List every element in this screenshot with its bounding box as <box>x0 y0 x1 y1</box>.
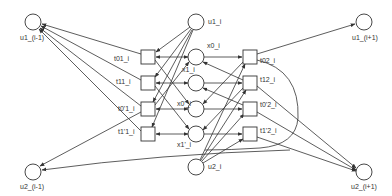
arc-u1i-to-t1p1 <box>152 30 193 127</box>
arc-t0p2-to-x1 <box>203 88 243 105</box>
place-label: x0'_i <box>177 100 192 108</box>
transition-label: t12_i <box>260 76 276 84</box>
transition-label: t01_i <box>114 55 130 63</box>
diagram-svg: u1_(i-1) u2_(i-1) u1_i x0_i x1_i x0'_i <box>0 0 392 196</box>
transition-t02-i[interactable]: t02_i <box>243 50 276 65</box>
place-label: u2_(i+1) <box>351 183 377 191</box>
arc-t0p1-to-u2im1 <box>40 112 141 166</box>
arc-t01-to-u1im1 <box>42 24 141 54</box>
transition-t1p2-i[interactable]: t1'2_i <box>243 127 277 141</box>
arc-u2i-to-t02 <box>200 64 245 160</box>
arc-t1p2-to-u2ip1 <box>257 137 356 171</box>
place-label: u1_i <box>208 18 222 26</box>
transition-label: t11_i <box>116 78 131 86</box>
place-label: x0_i <box>207 42 220 50</box>
place-x1p-i[interactable]: x1'_i <box>177 126 204 149</box>
place-u1-ip1[interactable]: u1_(i+1) <box>352 14 378 42</box>
place-u2-i[interactable]: u2_i <box>188 159 222 175</box>
place-x1-i[interactable]: x1_i <box>182 66 204 91</box>
place-label: u1_(i+1) <box>352 34 378 42</box>
arc-t12-to-x0 <box>203 62 243 80</box>
arc-u2i-to-t1p2 <box>203 139 243 163</box>
petri-net-diagram: u1_(i-1) u2_(i-1) u1_i x0_i x1_i x0'_i <box>0 0 392 196</box>
place-u2-ip1[interactable]: u2_(i+1) <box>351 164 377 191</box>
transition-label: t02_i <box>260 57 276 65</box>
arc-t02-to-u1ip1 <box>257 24 355 54</box>
place-label: u2_(i-1) <box>20 183 44 191</box>
arc-u2i-to-t0p2 <box>202 114 244 161</box>
transition-label: t0'2_i <box>260 101 277 109</box>
transition-t11-i[interactable]: t11_i <box>116 76 155 90</box>
place-label: u2_i <box>208 163 222 171</box>
place-label: x1_i <box>182 66 195 74</box>
place-label: u1_(i-1) <box>20 34 44 42</box>
arc-t0p1-to-u1im1 <box>40 28 141 106</box>
transition-label: t0'1_i <box>118 105 135 113</box>
place-x0p-i[interactable]: x0'_i <box>177 100 204 117</box>
transition-t1p1-i[interactable]: t1'1_i <box>118 127 155 141</box>
arcs <box>39 24 356 171</box>
place-u2-im1[interactable]: u2_(i-1) <box>20 164 44 191</box>
arc-right-to-u2im1 <box>42 150 290 170</box>
arc-t11-to-u1im1 <box>41 26 141 80</box>
place-x0-i[interactable]: x0_i <box>188 42 220 65</box>
arc-t0p2-to-u2ip1 <box>257 112 356 170</box>
place-u1-i[interactable]: u1_i <box>188 14 222 30</box>
place-label: x1'_i <box>177 141 192 149</box>
transition-label: t1'1_i <box>118 128 135 136</box>
transition-label: t1'2_i <box>260 127 277 135</box>
places: u1_(i-1) u2_(i-1) u1_i x0_i x1_i x0'_i <box>20 14 378 191</box>
